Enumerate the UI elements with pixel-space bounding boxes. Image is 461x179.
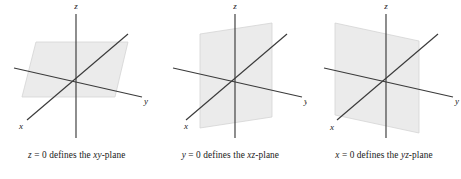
panel-yz-plane: z x y x = 0 defines the yz-plane xyxy=(307,0,461,179)
axis-label-x: x xyxy=(183,121,188,131)
diagram-xy-plane: z x y xyxy=(0,0,154,145)
panel-xz-plane: z x y y = 0 defines the xz-plane xyxy=(154,0,308,179)
diagram-xz-plane: z x y xyxy=(154,0,308,145)
axis-label-y: y xyxy=(454,96,459,106)
axis-label-x: x xyxy=(18,121,23,131)
caption-yz-plane: x = 0 defines the yz-plane xyxy=(307,150,461,160)
axis-label-z: z xyxy=(232,1,237,11)
axis-label-z: z xyxy=(73,1,78,11)
axis-label-x: x xyxy=(329,122,334,132)
caption-xz-plane: y = 0 defines the xz-plane xyxy=(154,150,308,160)
axis-label-y: y xyxy=(143,96,148,106)
coordinate-planes-figure: z x y z = 0 defines the xy-plane z x y xyxy=(0,0,461,179)
caption-xy-plane: z = 0 defines the xy-plane xyxy=(0,150,154,160)
panel-xy-plane: z x y z = 0 defines the xy-plane xyxy=(0,0,154,179)
diagram-yz-plane: z x y xyxy=(307,0,461,145)
axis-label-z: z xyxy=(383,1,388,11)
